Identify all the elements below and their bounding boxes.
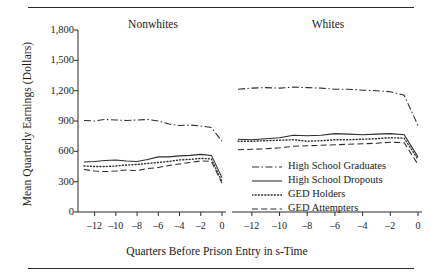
legend-item: High School Graduates <box>252 160 386 173</box>
top-rule <box>28 7 414 8</box>
y-axis-tick-labels: 03006009001,2001,5001,800 <box>28 0 74 280</box>
x-tick-label: 0 <box>209 220 235 231</box>
legend-key-solid-icon <box>252 176 282 186</box>
x-tick-label: –8 <box>294 220 320 231</box>
y-tick-label: 1,200 <box>28 85 74 96</box>
legend-key-dashed-icon <box>252 204 282 214</box>
panel-title-nonwhites: Nonwhites <box>93 18 213 30</box>
y-tick-label: 1,800 <box>28 25 74 36</box>
series-line-high-school-dropouts-whites <box>238 134 418 157</box>
legend-label: High School Dropouts <box>288 175 383 186</box>
y-tick-label: 900 <box>28 116 74 127</box>
legend-label: High School Graduates <box>288 161 386 172</box>
x-tick-label: –6 <box>322 220 348 231</box>
series-line-ged-holders-whites <box>238 138 418 160</box>
series-line-high-school-graduates-whites <box>238 87 418 125</box>
x-axis-title: Quarters Before Prison Entry in s-Time <box>0 245 434 257</box>
series-line-high-school-graduates-nonwhites <box>84 119 222 141</box>
y-tick-label: 300 <box>28 176 74 187</box>
legend-label: GED Holders <box>288 189 345 200</box>
y-tick-label: 1,500 <box>28 55 74 66</box>
series-line-high-school-dropouts-nonwhites <box>84 154 222 177</box>
x-tick-label: –4 <box>350 220 376 231</box>
x-tick-label: 0 <box>405 220 431 231</box>
bottom-rule <box>28 268 414 269</box>
x-tick-label: –10 <box>267 220 293 231</box>
legend-key-dashdot-icon <box>252 162 282 172</box>
legend-item: High School Dropouts <box>252 174 386 187</box>
legend: High School GraduatesHigh School Dropout… <box>252 160 386 216</box>
legend-label: GED Attempters <box>288 203 358 214</box>
x-tick-label: –12 <box>239 220 265 231</box>
y-tick-label: 600 <box>28 146 74 157</box>
series-line-ged-holders-nonwhites <box>84 158 222 181</box>
figure-container: Mean Quarterly Earnings (Dollars) 030060… <box>0 0 434 280</box>
x-tick-label: –2 <box>377 220 403 231</box>
legend-item: GED Attempters <box>252 202 386 215</box>
legend-item: GED Holders <box>252 188 386 201</box>
y-tick-label: 0 <box>28 207 74 218</box>
legend-key-dotted-icon <box>252 190 282 200</box>
panel-title-whites: Whites <box>268 18 388 30</box>
series-line-ged-attempters-nonwhites <box>84 161 222 183</box>
